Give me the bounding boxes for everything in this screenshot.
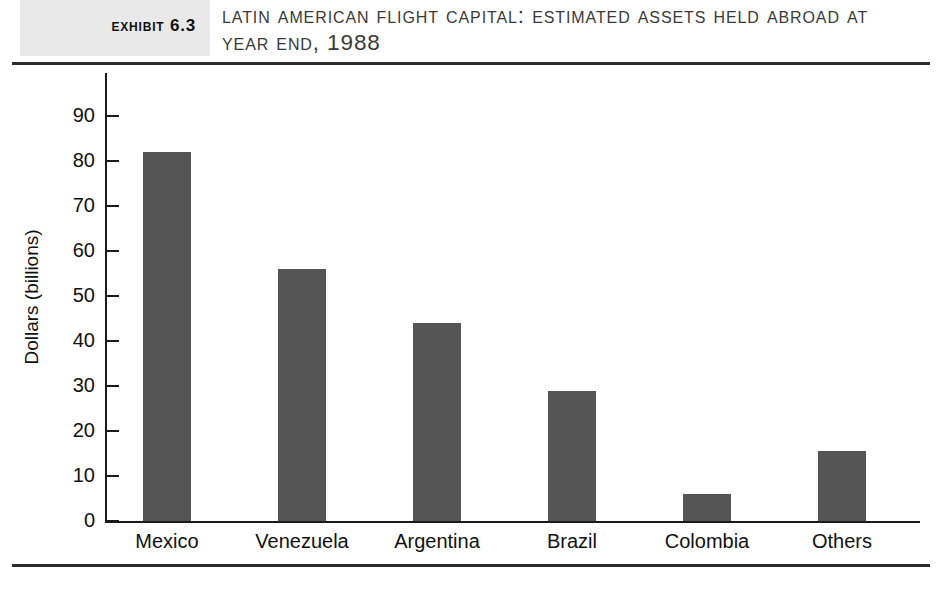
y-axis-tick-mark — [107, 160, 119, 162]
y-axis-tick-mark — [107, 385, 119, 387]
bar — [278, 269, 326, 521]
y-axis-tick-mark — [107, 295, 119, 297]
y-axis-tick-label: 80 — [50, 150, 95, 170]
y-axis-tick-label: 40 — [50, 330, 95, 350]
exhibit-header: Exhibit 6.3 Latin American Flight Capita… — [0, 0, 943, 64]
footer-divider-rule — [12, 564, 930, 567]
y-axis-line — [105, 73, 107, 523]
y-axis-tick-mark — [107, 205, 119, 207]
bar — [818, 451, 866, 521]
y-axis-tick-label: 90 — [50, 105, 95, 125]
bar-chart: Dollars (billions) 9080706050403020100 M… — [0, 64, 943, 564]
x-axis-category-label: Others — [762, 530, 922, 553]
y-axis-tick-label: 10 — [50, 465, 95, 485]
y-axis-tick-mark — [107, 115, 119, 117]
y-axis-tick-label: 0 — [50, 510, 95, 530]
bar — [413, 323, 461, 521]
y-axis-tick-label: 50 — [50, 285, 95, 305]
exhibit-number-label: Exhibit 6.3 — [20, 16, 196, 36]
y-axis-tick-mark — [107, 250, 119, 252]
y-axis-tick-label: 20 — [50, 420, 95, 440]
bar — [683, 494, 731, 521]
exhibit-number-badge: Exhibit 6.3 — [20, 0, 210, 56]
y-axis-tick-label: 60 — [50, 240, 95, 260]
y-axis-tick-mark — [107, 430, 119, 432]
bar — [548, 391, 596, 522]
y-axis-tick-mark — [107, 475, 119, 477]
bar — [143, 152, 191, 521]
exhibit-title: Latin American Flight Capital: Estimated… — [222, 2, 922, 56]
y-axis-tick-mark — [107, 520, 119, 522]
x-axis-line — [105, 521, 920, 523]
y-axis-tick-label: 70 — [50, 195, 95, 215]
y-axis-tick-mark — [107, 340, 119, 342]
y-axis-tick-label: 30 — [50, 375, 95, 395]
y-axis-title: Dollars (billions) — [21, 207, 43, 387]
